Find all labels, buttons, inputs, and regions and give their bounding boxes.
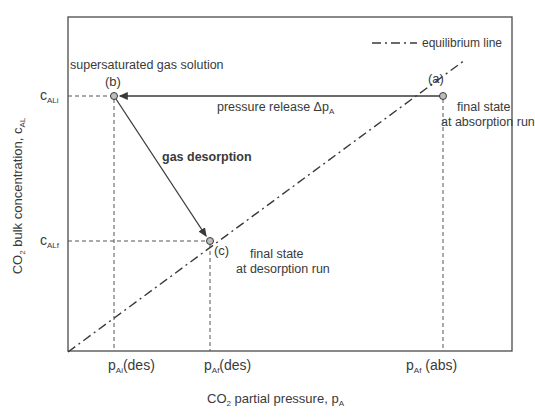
y-axis-label-sub2: AL	[18, 118, 27, 128]
y-axis-label-sub: 2	[18, 250, 27, 254]
y-tick-c-alf-sub: ALf	[47, 241, 59, 250]
point-b-label: (b)	[105, 75, 121, 88]
y-axis-label-rest: bulk concentration, c	[10, 127, 25, 250]
gas-desorption-label: gas desorption	[162, 151, 252, 164]
y-tick-c-ali-sub: ALi	[47, 96, 59, 105]
point-a-annotation-line1: final state	[457, 101, 511, 114]
x-tick-1-sub: Ai	[116, 366, 123, 375]
x-tick-p-af-des: pAf(des)	[204, 358, 251, 375]
point-a-marker	[440, 93, 447, 100]
y-tick-c-alf-main: c	[40, 232, 47, 248]
point-b-annotation: supersaturated gas solution	[70, 59, 224, 72]
point-c-annotation-line2: at desorption run	[236, 263, 330, 276]
point-c-marker	[207, 238, 214, 245]
gas-desorption-arrow	[116, 99, 206, 236]
pressure-release-text: pressure release Δp	[217, 100, 329, 114]
x-axis-label-sub2: A	[339, 399, 344, 408]
x-axis-label-rest: partial pressure, p	[231, 391, 339, 406]
legend-label: equilibrium line	[422, 37, 502, 49]
x-tick-3-main: p	[406, 357, 414, 373]
y-axis-label: CO2 bulk concentration, cAL	[10, 118, 27, 275]
y-axis-label-main: CO	[10, 255, 25, 275]
x-tick-1-main: p	[108, 357, 116, 373]
point-a-annotation-line2: at absorption run	[441, 116, 535, 129]
x-tick-p-ai-des: pAi(des)	[108, 358, 155, 375]
x-axis-label: CO2 partial pressure, pA	[207, 392, 344, 408]
pressure-release-label: pressure release ΔpA	[217, 101, 334, 116]
point-c-label: (c)	[214, 244, 229, 257]
x-tick-3-rest: (abs)	[421, 357, 457, 373]
x-tick-1-rest: (des)	[123, 357, 155, 373]
pressure-release-subscript: A	[329, 107, 334, 116]
x-tick-2-rest: (des)	[219, 357, 251, 373]
point-a-label: (a)	[428, 72, 444, 85]
guide-lines	[68, 96, 443, 351]
x-tick-2-main: p	[204, 357, 212, 373]
y-tick-c-ali: cALi	[40, 88, 59, 105]
y-tick-c-alf: cALf	[40, 233, 59, 250]
x-tick-p-af-abs: pAf (abs)	[406, 358, 457, 375]
y-tick-c-ali-main: c	[40, 87, 47, 103]
point-c-annotation-line1: final state	[250, 248, 304, 261]
point-b-marker	[111, 93, 118, 100]
x-axis-label-main: CO	[207, 391, 227, 406]
